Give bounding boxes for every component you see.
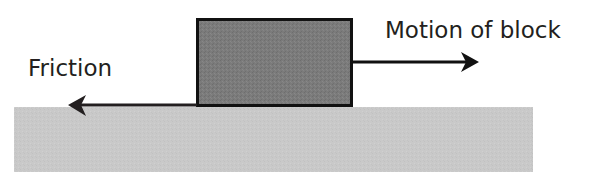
friction-label: Friction [28, 57, 112, 80]
motion-label: Motion of block [385, 19, 561, 42]
block [198, 20, 352, 106]
motion-arrow [352, 52, 479, 72]
friction-diagram: Friction Motion of block [0, 0, 599, 175]
ground-surface [14, 107, 533, 172]
